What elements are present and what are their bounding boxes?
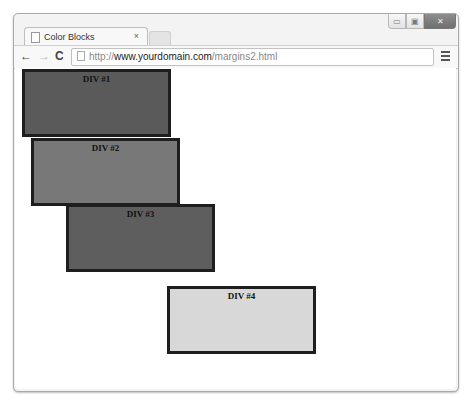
new-tab-button[interactable] (149, 31, 171, 45)
menu-icon (441, 51, 450, 53)
page-viewport: DIV #1 DIV #2 DIV #3 DIV #4 (15, 68, 456, 389)
div-block-label: DIV #4 (228, 291, 256, 301)
div-block-3: DIV #3 (66, 204, 215, 272)
close-window-button[interactable]: ✕ (424, 14, 456, 29)
window-controls: ▭ ▣ ✕ (388, 14, 456, 29)
tab-close-button[interactable]: × (134, 31, 139, 41)
div-block-4: DIV #4 (167, 286, 316, 354)
url-path: /margins2.html (212, 51, 278, 62)
close-icon: ✕ (437, 17, 444, 26)
minimize-icon: ▭ (393, 17, 401, 26)
page-icon (31, 32, 40, 43)
maximize-icon: ▣ (411, 17, 419, 26)
reload-button[interactable]: C (55, 49, 64, 63)
minimize-button[interactable]: ▭ (388, 14, 406, 29)
menu-button[interactable] (441, 49, 453, 63)
forward-button[interactable]: → (38, 49, 50, 63)
address-bar[interactable]: http://www.yourdomain.com/margins2.html (71, 48, 434, 66)
div-block-label: DIV #1 (83, 74, 111, 84)
tab-color-blocks[interactable]: Color Blocks × (24, 27, 148, 46)
url-domain: www.yourdomain.com (114, 51, 212, 62)
maximize-button[interactable]: ▣ (406, 14, 424, 29)
browser-window: ▭ ▣ ✕ Color Blocks × ← → C http://www.yo… (13, 13, 459, 392)
tab-title: Color Blocks (44, 32, 95, 42)
div-block-1: DIV #1 (22, 69, 171, 137)
div-block-label: DIV #2 (92, 143, 120, 153)
page-icon (77, 51, 85, 61)
back-button[interactable]: ← (20, 49, 32, 63)
browser-toolbar: ← → C http://www.yourdomain.com/margins2… (14, 45, 458, 69)
div-block-label: DIV #3 (127, 209, 155, 219)
div-block-2: DIV #2 (31, 138, 180, 206)
url-scheme: http:// (89, 51, 114, 62)
